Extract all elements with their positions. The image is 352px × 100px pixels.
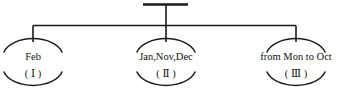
node-group-2: Jan,Nov,Dec ( Ⅱ ) [137, 39, 195, 86]
tree-diagram: Feb ( Ⅰ ) Jan,Nov,Dec ( Ⅱ ) from Mon to … [0, 0, 352, 100]
diagram-canvas: Feb ( Ⅰ ) Jan,Nov,Dec ( Ⅱ ) from Mon to … [0, 0, 352, 100]
node-group-1: Feb ( Ⅰ ) [4, 39, 62, 86]
node-group-3: from Mon to Oct ( Ⅲ ) [260, 39, 332, 86]
node-1-label: Feb [25, 51, 41, 62]
node-1-numeral: ( Ⅰ ) [25, 68, 42, 80]
node-2-label: Jan,Nov,Dec [139, 51, 193, 62]
node-3-label: from Mon to Oct [260, 51, 332, 62]
node-3-numeral: ( Ⅲ ) [285, 68, 308, 80]
node-2-numeral: ( Ⅱ ) [156, 68, 176, 80]
